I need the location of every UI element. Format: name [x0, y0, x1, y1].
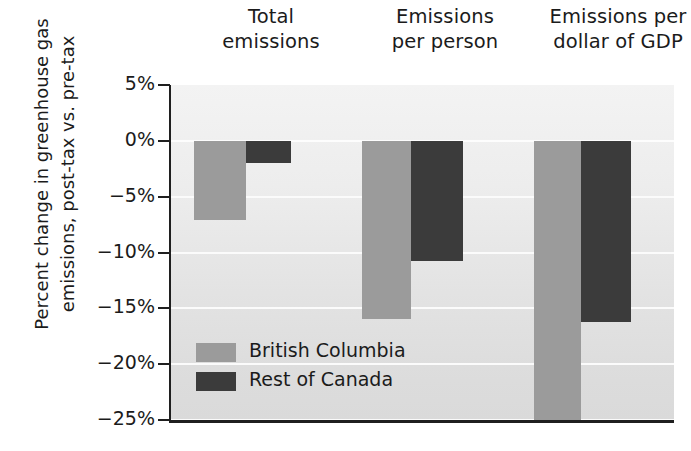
category-label-line: emissions	[186, 29, 356, 54]
legend-swatch-icon	[196, 372, 236, 391]
y-axis-line	[169, 85, 171, 422]
category-label-emissions-per-dollar-gdp: Emissions per dollar of GDP	[528, 4, 691, 54]
category-label-line: dollar of GDP	[528, 29, 691, 54]
legend-item-british-columbia: British Columbia	[196, 340, 426, 366]
category-label-line: Emissions	[360, 4, 530, 29]
category-label-total-emissions: Total emissions	[186, 4, 356, 54]
legend: British Columbia Rest of Canada	[196, 340, 426, 400]
bar-rest-of-canada	[581, 141, 631, 322]
legend-label: Rest of Canada	[249, 368, 393, 390]
bar-rest-of-canada	[246, 141, 291, 163]
bar-british-columbia	[534, 141, 581, 420]
legend-label: British Columbia	[249, 339, 406, 361]
category-label-line: Total	[186, 4, 356, 29]
legend-item-rest-of-canada: Rest of Canada	[196, 369, 426, 395]
category-label-line: per person	[360, 29, 530, 54]
bar-british-columbia	[362, 141, 411, 320]
category-label-line: Emissions per	[528, 4, 691, 29]
category-label-emissions-per-person: Emissions per person	[360, 4, 530, 54]
bar-rest-of-canada	[411, 141, 463, 262]
legend-swatch-icon	[196, 343, 236, 362]
y-axis-tick-labels: 5%0%−5%−10%−15%−20%−25%	[0, 0, 155, 451]
x-axis-line	[169, 420, 674, 423]
category-labels: Total emissions Emissions per person Emi…	[160, 4, 680, 78]
bar-british-columbia	[194, 141, 246, 220]
